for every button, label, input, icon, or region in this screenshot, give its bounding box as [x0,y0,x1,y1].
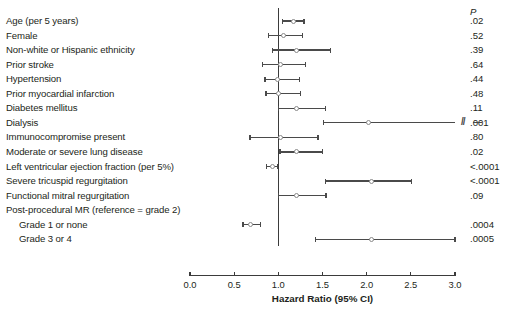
ci-continuation [473,122,482,123]
ci-cap-upper [454,237,455,242]
x-axis-tick [234,272,235,276]
ci-cap-upper [317,135,318,140]
ci-cap-lower [265,91,266,96]
ci-cap-upper [305,62,306,67]
hazard-ratio-marker [294,106,299,111]
hazard-ratio-marker [366,120,371,125]
ci-cap-lower [282,19,283,24]
confidence-interval-line [265,79,299,80]
ci-cap-upper [303,19,304,24]
ci-cap-lower [278,106,279,111]
ci-cap-lower [262,62,263,67]
ci-cap-upper [299,77,300,82]
ci-cap-lower [268,33,269,38]
x-axis-tick [366,272,367,276]
x-axis-tick [189,272,190,276]
ci-cap-upper [411,179,412,184]
ci-cap-lower [325,179,326,184]
ci-cap-upper [325,193,326,198]
x-axis-tick [410,272,411,276]
x-axis-tick-label: 0.0 [183,279,196,290]
ci-cap-upper [325,106,326,111]
confidence-interval-line [278,108,325,109]
hazard-ratio-marker [294,48,299,53]
hazard-ratio-marker [369,237,374,242]
confidence-interval-line [315,239,455,240]
hazard-ratio-marker [294,193,299,198]
x-axis-tick [454,272,455,276]
confidence-interval-line [325,180,412,181]
x-axis-tick-label: 2.5 [404,279,417,290]
x-axis-tick-label: 2.0 [360,279,373,290]
x-axis-tick-label: 0.5 [228,279,241,290]
ci-cap-upper [322,149,323,154]
ci-cap-upper [277,164,278,169]
hazard-ratio-marker [278,62,283,67]
hazard-ratio-marker [281,33,286,38]
hazard-ratio-marker [275,77,280,82]
ci-cap-lower [272,48,273,53]
x-axis-tick-label: 1.5 [316,279,329,290]
hazard-ratio-marker [294,149,299,154]
ci-cap-upper [330,48,331,53]
reference-line [278,8,279,246]
ci-cap-lower [278,193,279,198]
ci-cap-lower [323,120,324,125]
confidence-interval-line [250,137,318,138]
forest-plot: Age (per 5 years)FemaleNon-white or Hisp… [0,0,523,309]
x-axis-tick [322,272,323,276]
ci-cap-upper [300,91,301,96]
hazard-ratio-marker [278,135,283,140]
confidence-interval-line [278,195,326,196]
x-axis-title: Hazard Ratio (95% CI) [272,293,373,304]
x-axis-tick [278,272,279,276]
x-axis-tick-label: 1.0 [272,279,285,290]
ci-cap-lower [264,77,265,82]
hazard-ratio-marker [270,164,275,169]
ci-cap-lower [249,135,250,140]
ci-cap-lower [266,164,267,169]
axis-break-mark: // [461,116,465,127]
hazard-ratio-marker [291,19,296,24]
ci-cap-lower [242,222,243,227]
confidence-interval-line [266,93,300,94]
hazard-ratio-marker [276,91,281,96]
confidence-interval-line [323,122,455,123]
confidence-interval-line [262,64,305,65]
confidence-interval-line [280,151,322,152]
hazard-ratio-marker [369,179,374,184]
ci-cap-lower [279,149,280,154]
ci-cap-upper [302,33,303,38]
confidence-interval-line [272,49,330,50]
ci-cap-upper [260,222,261,227]
ci-cap-lower [315,237,316,242]
plot-area: //0.00.51.01.52.02.53.0Hazard Ratio (95%… [0,0,523,309]
x-axis-tick-label: 3.0 [448,279,461,290]
hazard-ratio-marker [248,222,253,227]
